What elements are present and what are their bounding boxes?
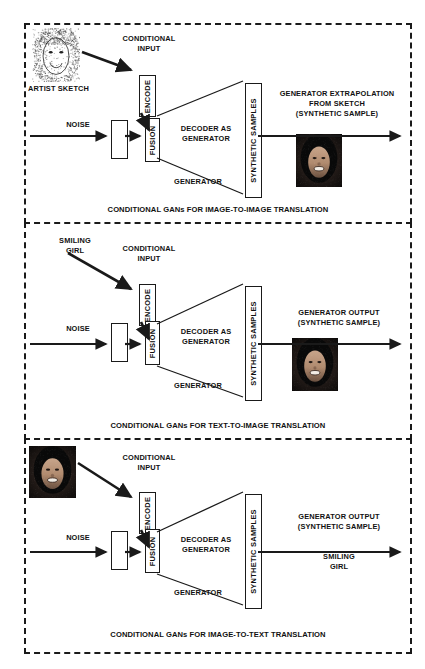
- fusion-label-1: FUSION: [148, 328, 157, 358]
- output-label-1: GENERATOR OUTPUT (SYNTHETIC SAMPLE): [274, 308, 404, 328]
- encode-box-0: ENCODE: [139, 75, 156, 117]
- conditional-input-label-0: CONDITIONAL INPUT: [110, 34, 188, 54]
- noise-block-2: [111, 531, 128, 570]
- cgan-architecture-figure: ARTIST SKETCH CONDITIONAL INPUT ENCODE N…: [0, 0, 425, 669]
- input-image-face-2: [29, 446, 76, 498]
- noise-label-0: NOISE: [54, 120, 102, 130]
- fusion-box-0: FUSION: [145, 118, 160, 162]
- input-image-artist-sketch: [32, 28, 80, 82]
- fusion-box-1: FUSION: [145, 321, 160, 365]
- conditional-input-label-2: CONDITIONAL INPUT: [110, 453, 188, 473]
- noise-block-0: [111, 120, 128, 159]
- encode-label-0: ENCODE: [143, 79, 152, 112]
- input-caption-smiling-girl-1: SMILING GIRL: [44, 236, 106, 256]
- panel-text-to-image: SMILING GIRL CONDITIONAL INPUT ENCODE NO…: [24, 222, 412, 440]
- panel-image-to-text: CONDITIONAL INPUT ENCODE NOISE FUSION DE…: [24, 438, 412, 654]
- output-image-synthetic-face-1: [292, 338, 338, 391]
- generator-label-0: GENERATOR: [167, 177, 229, 187]
- synthetic-samples-box-2: SYNTHETIC SAMPLES: [245, 494, 262, 609]
- output-text-smiling-girl-2: SMILING GIRL: [279, 552, 399, 572]
- noise-label-2: NOISE: [54, 533, 102, 543]
- output-label-2: GENERATOR OUTPUT (SYNTHETIC SAMPLE): [274, 512, 404, 532]
- panel-caption-0: CONDITIONAL GANs FOR IMAGE-TO-IMAGE TRAN…: [26, 205, 410, 214]
- noise-label-1: NOISE: [54, 324, 102, 334]
- encode-label-2: ENCODE: [143, 496, 152, 529]
- decoder-label-2: DECODER AS GENERATOR: [169, 535, 243, 555]
- decoder-label-1: DECODER AS GENERATOR: [169, 327, 243, 347]
- input-caption-artist-sketch: ARTIST SKETCH: [28, 84, 90, 94]
- synthetic-samples-box-1: SYNTHETIC SAMPLES: [245, 286, 262, 401]
- panel-caption-1: CONDITIONAL GANs FOR TEXT-TO-IMAGE TRANS…: [26, 421, 410, 430]
- output-label-0: GENERATOR EXTRAPOLATION FROM SKETCH (SYN…: [266, 89, 408, 118]
- encode-box-1: ENCODE: [139, 284, 156, 326]
- output-image-synthetic-face-0: [296, 134, 342, 187]
- decoder-label-0: DECODER AS GENERATOR: [169, 124, 243, 144]
- generator-label-1: GENERATOR: [167, 381, 229, 391]
- noise-block-1: [111, 323, 128, 362]
- encode-label-1: ENCODE: [143, 288, 152, 321]
- synthetic-samples-box-0: SYNTHETIC SAMPLES: [245, 83, 262, 198]
- generator-label-2: GENERATOR: [167, 588, 229, 598]
- conditional-input-label-1: CONDITIONAL INPUT: [110, 244, 188, 264]
- synthetic-samples-label-1: SYNTHETIC SAMPLES: [249, 301, 258, 386]
- fusion-label-2: FUSION: [148, 536, 157, 566]
- encode-box-2: ENCODE: [139, 492, 156, 534]
- fusion-box-2: FUSION: [145, 529, 160, 573]
- panel-image-to-image: ARTIST SKETCH CONDITIONAL INPUT ENCODE N…: [24, 23, 412, 224]
- panel-caption-2: CONDITIONAL GANs FOR IMAGE-TO-TEXT TRANS…: [26, 630, 410, 639]
- synthetic-samples-label-0: SYNTHETIC SAMPLES: [249, 98, 258, 183]
- fusion-label-0: FUSION: [148, 125, 157, 155]
- synthetic-samples-label-2: SYNTHETIC SAMPLES: [249, 509, 258, 594]
